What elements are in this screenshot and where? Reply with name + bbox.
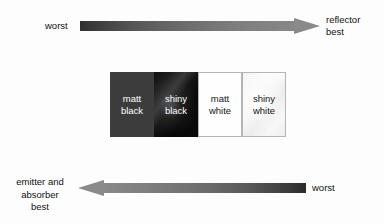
top-scale-right-label: reflector best <box>326 14 360 38</box>
swatch-matt-white: matt white <box>198 72 242 137</box>
arrow-left-icon <box>78 180 104 196</box>
bottom-scale-gradient-bar <box>102 183 306 193</box>
diagram-canvas: worst reflector best matt black shiny bl… <box>0 0 384 224</box>
top-scale-gradient-bar <box>80 21 296 31</box>
top-scale-right-label-line1: reflector <box>326 14 360 26</box>
arrow-right-icon <box>294 18 320 34</box>
swatch-shiny-white: shiny white <box>242 72 286 137</box>
bottom-scale-left-label: emitter and absorber best <box>8 176 72 214</box>
top-scale-right-label-line2: best <box>326 26 360 38</box>
swatch-shiny-black: shiny black <box>154 72 198 137</box>
swatch-matt-white-line2: white <box>209 105 231 117</box>
swatch-shiny-black-line1: shiny <box>165 93 187 105</box>
swatch-matt-black-line1: matt <box>123 93 141 105</box>
bottom-scale-right-label: worst <box>312 182 335 194</box>
swatch-shiny-black-line2: black <box>165 105 187 117</box>
bottom-scale-left-label-line3: best <box>8 201 72 214</box>
bottom-scale-left-label-line1: emitter and <box>8 176 72 189</box>
swatch-shiny-white-line1: shiny <box>253 93 275 105</box>
top-scale-arrow <box>80 18 320 34</box>
swatch-matt-white-line1: matt <box>211 93 229 105</box>
bottom-scale-left-label-line2: absorber <box>8 189 72 202</box>
top-scale-left-label: worst <box>45 20 68 32</box>
swatch-matt-black: matt black <box>110 72 154 137</box>
swatch-matt-black-line2: black <box>121 105 143 117</box>
surface-swatch-row: matt black shiny black matt white shiny … <box>110 72 286 137</box>
swatch-shiny-white-line2: white <box>253 105 275 117</box>
bottom-scale-arrow <box>78 180 306 196</box>
